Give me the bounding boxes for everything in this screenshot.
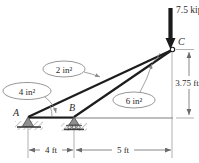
node-label-c: C [178,36,185,47]
angle-arc-at-a [50,106,52,117]
load-label: 7.5 kips [176,5,199,15]
callout-area-ab-label: 4 in² [19,87,36,97]
dimension-span-ab: 4 ft [29,143,73,156]
truss-diagram-figure: A B C 7.5 kips 4 in² 2 in² 6 in² [0,0,199,163]
dimension-height-label: 3.75 ft [175,78,199,88]
callout-area-ac: 2 in² [43,61,100,77]
node-label-b: B [69,102,75,113]
dimension-span-bc: 5 ft [76,143,171,156]
dimension-span-bc-label: 5 ft [117,145,130,155]
load-arrow-at-c [166,8,176,50]
callout-area-ac-label: 2 in² [56,65,73,75]
member-ac [28,50,172,117]
node-label-a: A [12,107,20,118]
dimension-span-ab-label: 4 ft [45,145,58,155]
truss-diagram-canvas: A B C 7.5 kips 4 in² 2 in² 6 in² [0,0,199,163]
dimension-height: 3.75 ft [172,50,199,119]
callout-area-bc-label: 6 in² [126,96,143,106]
